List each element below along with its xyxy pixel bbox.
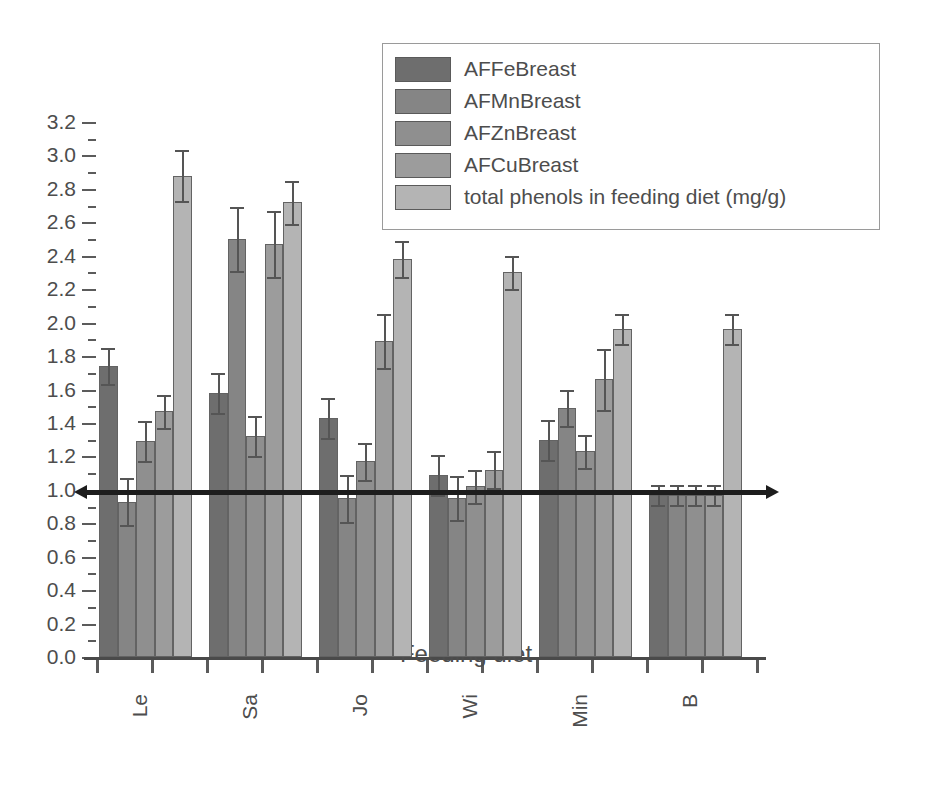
bar	[503, 272, 522, 657]
error-bar-cap-bottom	[321, 438, 335, 440]
y-tick-label: 0.4	[47, 578, 76, 602]
error-bar-cap-bottom	[248, 456, 262, 458]
y-tick-label: 2.4	[47, 244, 76, 268]
error-bar-cap-top	[248, 416, 262, 418]
legend-swatch	[395, 89, 451, 114]
bar	[393, 259, 412, 657]
error-bar-cap-bottom	[377, 368, 391, 370]
error-bar-cap-bottom	[285, 224, 299, 226]
y-tick-minor	[88, 306, 96, 308]
bar	[246, 436, 265, 657]
error-bar-cap-bottom	[211, 413, 225, 415]
bar	[429, 475, 448, 657]
error-bar	[494, 451, 496, 488]
y-tick-label: 0.2	[47, 612, 76, 636]
y-tick-label: 2.0	[47, 311, 76, 335]
error-bar-cap-top	[395, 241, 409, 243]
y-tick-label: 2.6	[47, 210, 76, 234]
legend-label: AFMnBreast	[464, 89, 581, 113]
error-bar	[512, 256, 514, 289]
error-bar	[237, 207, 239, 271]
y-tick	[82, 155, 96, 157]
error-bar-cap-top	[157, 395, 171, 397]
bar	[485, 470, 504, 657]
bar	[466, 486, 485, 657]
reference-line	[82, 490, 768, 495]
error-bar-cap-bottom	[395, 277, 409, 279]
error-bar	[567, 390, 569, 427]
error-bar	[622, 314, 624, 344]
y-tick-minor	[88, 139, 96, 141]
bar	[319, 418, 338, 657]
error-bar-cap-top	[578, 435, 592, 437]
y-tick	[82, 624, 96, 626]
x-tick-b	[701, 660, 704, 673]
error-bar-cap-top	[541, 420, 555, 422]
error-bar-cap-top	[377, 314, 391, 316]
error-bar-cap-bottom	[157, 428, 171, 430]
error-bar	[347, 475, 349, 522]
y-tick-label: 0.0	[47, 645, 76, 669]
y-tick-label: 1.0	[47, 478, 76, 502]
bar	[595, 379, 614, 657]
y-tick	[82, 289, 96, 291]
error-bar-cap-top	[321, 398, 335, 400]
x-tick-label: Min	[568, 694, 592, 728]
y-tick-minor	[88, 473, 96, 475]
error-bar	[274, 211, 276, 278]
error-bar-cap-top	[285, 181, 299, 183]
error-bar-cap-bottom	[578, 468, 592, 470]
error-bar-cap-bottom	[541, 460, 555, 462]
error-bar	[292, 181, 294, 224]
error-bar	[182, 150, 184, 200]
y-tick	[82, 590, 96, 592]
x-tick-label: B	[678, 694, 702, 708]
y-tick-minor	[88, 239, 96, 241]
x-tick-boundary	[206, 660, 209, 673]
error-bar-cap-bottom	[725, 344, 739, 346]
error-bar-cap-top	[340, 475, 354, 477]
legend-item: AFFeBreast	[395, 53, 867, 85]
x-tick-boundary	[536, 660, 539, 673]
x-tick-label: Le	[128, 694, 152, 717]
y-tick-minor	[88, 440, 96, 442]
error-bar-cap-bottom	[560, 426, 574, 428]
bar	[155, 411, 174, 657]
bar	[448, 498, 467, 657]
x-tick-label: Wi	[458, 694, 482, 719]
y-tick	[82, 323, 96, 325]
y-tick	[82, 256, 96, 258]
y-tick	[82, 523, 96, 525]
y-tick-minor	[88, 172, 96, 174]
error-bar-cap-bottom	[707, 505, 721, 507]
error-bar	[732, 314, 734, 344]
y-tick	[82, 423, 96, 425]
error-bar-cap-bottom	[688, 505, 702, 507]
error-bar	[328, 398, 330, 438]
legend-swatch	[395, 153, 451, 178]
y-tick	[82, 356, 96, 358]
bar	[265, 244, 284, 657]
bar	[558, 408, 577, 657]
x-tick-boundary	[646, 660, 649, 673]
bar	[576, 451, 595, 657]
error-bar-cap-top	[468, 470, 482, 472]
error-bar-cap-bottom	[450, 520, 464, 522]
error-bar-cap-bottom	[651, 505, 665, 507]
error-bar-cap-bottom	[358, 480, 372, 482]
error-bar-cap-top	[431, 455, 445, 457]
error-bar-cap-top	[138, 421, 152, 423]
error-bar	[127, 478, 129, 525]
error-bar-cap-top	[505, 256, 519, 258]
y-tick-minor	[88, 406, 96, 408]
y-tick	[82, 456, 96, 458]
error-bar	[548, 420, 550, 460]
error-bar-cap-bottom	[120, 525, 134, 527]
x-tick-le	[151, 660, 154, 673]
reference-line-arrow-left	[74, 485, 87, 499]
error-bar-cap-top	[211, 373, 225, 375]
y-tick	[82, 390, 96, 392]
error-bar-cap-bottom	[597, 410, 611, 412]
error-bar	[677, 485, 679, 505]
error-bar-cap-top	[651, 485, 665, 487]
